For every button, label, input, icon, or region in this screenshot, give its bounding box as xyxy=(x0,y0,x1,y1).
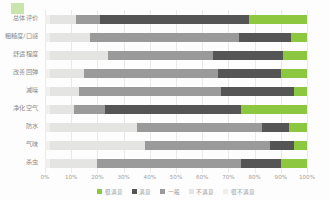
stacked-bar xyxy=(45,159,307,168)
bar-segment xyxy=(270,141,294,150)
bar-segment xyxy=(50,69,84,78)
bar-segment xyxy=(241,105,307,114)
stacked-bar xyxy=(45,123,307,132)
bar-row: 粗糙度/口感 xyxy=(45,33,307,42)
bar-segment xyxy=(79,87,220,96)
legend-swatch xyxy=(160,189,165,194)
stacked-bar xyxy=(45,51,307,60)
stacked-bar xyxy=(45,141,307,150)
bar-segment xyxy=(283,51,307,60)
category-label: 舒适程度 xyxy=(13,49,38,58)
bar-segment xyxy=(218,69,281,78)
bar-segment xyxy=(50,15,76,24)
bar-segment xyxy=(241,159,280,168)
bar-segment xyxy=(50,51,108,60)
legend-swatch xyxy=(223,189,228,194)
legend-label: 一般 xyxy=(168,188,180,196)
bar-segment xyxy=(50,141,144,150)
bar-row: 杀虫 xyxy=(45,159,307,168)
bar-segment xyxy=(50,105,74,114)
legend-item[interactable]: 满意 xyxy=(132,188,152,196)
bar-segment xyxy=(100,15,249,24)
bar-row: 改善回弹 xyxy=(45,69,307,78)
legend-item[interactable]: 不满意 xyxy=(189,188,215,196)
bar-segment xyxy=(108,51,213,60)
stacked-bar xyxy=(45,15,307,24)
x-axis-tick: 40% xyxy=(144,174,156,180)
legend-swatch xyxy=(132,189,137,194)
bar-segment xyxy=(76,15,100,24)
stacked-bar xyxy=(45,69,307,78)
legend-label: 很满意 xyxy=(105,188,123,196)
legend-label: 很不满意 xyxy=(231,188,255,196)
category-label: 粗糙度/口感 xyxy=(5,31,38,40)
bar-segment xyxy=(105,105,241,114)
x-axis-tick: 50% xyxy=(170,174,182,180)
bar-segment xyxy=(294,87,307,96)
stacked-bar xyxy=(45,105,307,114)
bar-segment xyxy=(249,15,307,24)
bar-segment xyxy=(281,69,307,78)
legend-label: 满意 xyxy=(139,188,151,196)
x-axis-tick: 70% xyxy=(222,174,234,180)
category-label: 总体评价 xyxy=(13,13,38,22)
bar-segment xyxy=(239,33,291,42)
x-axis-tick: 0% xyxy=(41,174,50,180)
legend-swatch xyxy=(189,189,194,194)
x-axis-tick: 10% xyxy=(65,174,77,180)
legend-item[interactable]: 很不满意 xyxy=(223,188,255,196)
bar-row: 舒适程度 xyxy=(45,51,307,60)
bar-row: 总体评价 xyxy=(45,15,307,24)
bar-segment xyxy=(84,69,218,78)
bar-row: 减噪 xyxy=(45,87,307,96)
bar-segment xyxy=(74,105,105,114)
gridline xyxy=(307,10,308,173)
x-axis-tick: 80% xyxy=(248,174,260,180)
bar-row: 净化空气 xyxy=(45,105,307,114)
category-label: 杀虫 xyxy=(26,157,38,166)
category-label: 防水 xyxy=(26,121,38,130)
category-label: 改善回弹 xyxy=(13,67,38,76)
stacked-bar xyxy=(45,87,307,96)
bar-rows: 总体评价粗糙度/口感舒适程度改善回弹减噪净化空气防水气味杀虫 xyxy=(45,10,307,173)
bar-segment xyxy=(50,123,136,132)
legend-label: 不满意 xyxy=(196,188,214,196)
chart-legend: 很满意满意一般不满意很不满意 xyxy=(45,186,307,197)
bar-segment xyxy=(97,159,241,168)
bar-segment xyxy=(50,87,79,96)
category-label: 减噪 xyxy=(26,85,38,94)
bar-segment xyxy=(291,33,307,42)
bar-segment xyxy=(281,159,307,168)
bar-segment xyxy=(294,141,307,150)
stacked-bar xyxy=(45,33,307,42)
x-axis: 0%10%20%30%40%50%60%70%80%90%100% xyxy=(45,174,307,184)
plot-area: 总体评价粗糙度/口感舒适程度改善回弹减噪净化空气防水气味杀虫 xyxy=(45,10,307,173)
legend-swatch xyxy=(97,189,102,194)
bar-segment xyxy=(50,159,97,168)
x-axis-tick: 30% xyxy=(117,174,129,180)
x-axis-tick: 60% xyxy=(196,174,208,180)
category-label: 净化空气 xyxy=(13,103,38,112)
bar-row: 气味 xyxy=(45,141,307,150)
bar-row: 防水 xyxy=(45,123,307,132)
x-axis-tick: 100% xyxy=(299,174,315,180)
bar-segment xyxy=(289,123,307,132)
bar-segment xyxy=(262,123,288,132)
bar-segment xyxy=(221,87,294,96)
stacked-bar-chart: 总体评价粗糙度/口感舒适程度改善回弹减噪净化空气防水气味杀虫 0%10%20%3… xyxy=(0,0,330,200)
bar-segment xyxy=(90,33,239,42)
legend-item[interactable]: 很满意 xyxy=(97,188,123,196)
bar-segment xyxy=(137,123,263,132)
legend-item[interactable]: 一般 xyxy=(160,188,180,196)
bar-segment xyxy=(213,51,284,60)
category-label: 气味 xyxy=(26,139,38,148)
x-axis-tick: 20% xyxy=(91,174,103,180)
x-axis-tick: 90% xyxy=(275,174,287,180)
bar-segment xyxy=(50,33,89,42)
bar-segment xyxy=(145,141,271,150)
